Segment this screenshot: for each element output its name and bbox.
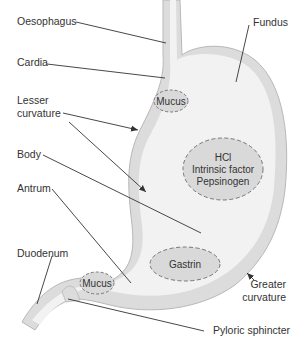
antrum-label: Antrum (17, 182, 51, 194)
cardia-label: Cardia (17, 56, 48, 68)
body-label: Body (17, 148, 42, 160)
antrum-leader (52, 189, 131, 283)
mucus-bottom-label: Mucus (82, 278, 111, 289)
mucus-bottom-region: Mucus (80, 272, 114, 294)
mucus-top-label: Mucus (156, 96, 185, 107)
oesophagus-label: Oesophagus (17, 15, 77, 27)
greater-curvature-label-line1: Greater (250, 278, 286, 290)
lesser-curvature-label-line1: Lesser (17, 94, 49, 106)
greater-curvature-label-line2: curvature (242, 291, 286, 303)
gastric-glands-region: HCl Intrinsic factor Pepsinogen (183, 138, 263, 200)
lesser-curvature-label-line2: curvature (17, 107, 61, 119)
mucus-top-region: Mucus (154, 90, 188, 112)
gastrin-region: Gastrin (150, 247, 220, 281)
fundus-label: Fundus (253, 16, 288, 28)
lesser-curvature-arrow-1 (63, 113, 138, 130)
oesophagus-leader (76, 22, 166, 43)
intrinsic-factor-label: Intrinsic factor (192, 164, 255, 175)
pyloric-sphincter-label: Pyloric sphincter (213, 324, 291, 336)
stomach-diagram: Mucus HCl Intrinsic factor Pepsinogen Ga… (0, 0, 299, 342)
pepsinogen-label: Pepsinogen (197, 176, 250, 187)
hcl-label: HCl (215, 152, 232, 163)
cardia-leader (47, 64, 165, 78)
duodenum-label: Duodenum (17, 247, 69, 259)
gastrin-label: Gastrin (169, 259, 201, 270)
